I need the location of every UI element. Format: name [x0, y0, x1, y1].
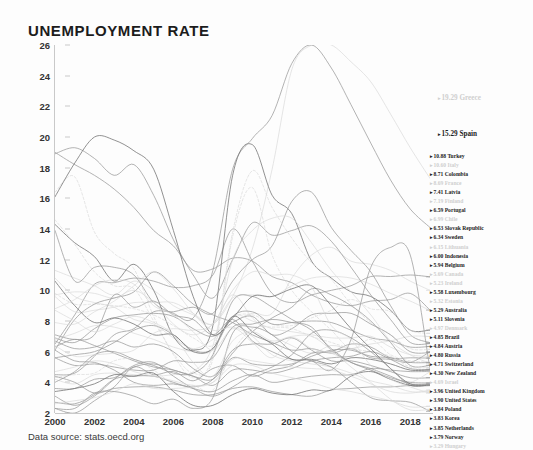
y-axis-tick: 12 [39, 254, 50, 265]
series-label-text: 4.30 New Zealand [434, 370, 477, 376]
series-label-netherlands: ▸3.85 Netherlands [430, 426, 474, 432]
x-axis-tick: 2000 [44, 416, 65, 427]
series-label-finland: ▸7.19 Finland [430, 199, 463, 205]
x-axis-line [55, 413, 433, 414]
y-axis-tick: 22 [39, 101, 50, 112]
series-label-latvia: ▸7.41 Latvia [430, 190, 460, 196]
x-axis-tick: 2004 [123, 416, 144, 427]
series-label-turkey: ▸10.88 Turkey [430, 154, 465, 160]
series-label-text: 5.58 Luxembourg [434, 289, 476, 295]
series-label-text: 4.69 Israel [434, 379, 459, 385]
series-label-slovenia: ▸5.11 Slovenia [430, 317, 465, 323]
series-label-belgium: ▸5.94 Belgium [430, 263, 465, 269]
series-label-text: 6.53 Slovak Republic [434, 226, 484, 232]
series-label-text: 6.99 Chile [434, 217, 458, 223]
y-axis-tick: 4 [45, 377, 50, 388]
series-label-lithuania: ▸6.15 Lithuania [430, 245, 468, 251]
series-label-luxembourg: ▸5.58 Luxembourg [430, 290, 476, 296]
series-label-text: 5.69 Canada [434, 271, 464, 277]
series-label-new-zealand: ▸4.30 New Zealand [430, 371, 476, 377]
y-axis-tick: 26 [39, 40, 50, 51]
x-axis-tick: 2014 [321, 416, 342, 427]
series-line [55, 152, 430, 310]
series-label-chile: ▸6.99 Chile [430, 218, 457, 224]
series-label-korea: ▸3.83 Korea [430, 417, 460, 423]
series-label-sweden: ▸6.34 Sweden [430, 236, 463, 242]
y-axis-tick: 10 [39, 285, 50, 296]
series-label-text: 4.71 Switzerland [434, 361, 474, 367]
series-label-text: 15.29 Spain [442, 130, 478, 138]
series-line [55, 148, 430, 345]
series-label-text: 19.29 Greece [442, 94, 481, 102]
series-label-text: 4.80 Russia [434, 352, 461, 358]
x-axis-tick: 2012 [281, 416, 302, 427]
series-label-slovak-republic: ▸6.53 Slovak Republic [430, 227, 484, 233]
series-label-poland: ▸3.84 Poland [430, 408, 461, 414]
series-label-switzerland: ▸4.71 Switzerland [430, 362, 473, 368]
series-label-denmark: ▸4.97 Denmark [430, 326, 467, 332]
series-label-text: 3.29 Hungary [434, 443, 467, 449]
series-endpoint-labels: ▸19.29 Greece▸15.29 Spain▸10.88 Turkey▸1… [430, 88, 533, 433]
series-label-brazil: ▸4.85 Brazil [430, 335, 459, 341]
series-label-russia: ▸4.80 Russia [430, 353, 461, 359]
series-label-france: ▸8.69 France [430, 181, 461, 187]
series-label-text: 5.29 Australia [434, 307, 467, 313]
y-axis-labels: 2468101214161820222426 [16, 45, 54, 413]
series-label-text: 8.69 France [434, 180, 462, 186]
series-label-text: 3.85 Netherlands [434, 425, 474, 431]
x-axis-tick: 2006 [163, 416, 184, 427]
series-label-text: 3.83 Korea [434, 416, 460, 422]
source-note: Data source: stats.oecd.org [28, 431, 144, 442]
series-label-text: 5.32 Estonia [434, 298, 463, 304]
x-axis-tick: 2016 [360, 416, 381, 427]
series-label-text: 3.79 Norway [434, 434, 464, 440]
series-label-ireland: ▸5.23 Ireland [430, 281, 462, 287]
series-label-text: 5.11 Slovenia [434, 316, 465, 322]
series-label-text: 10.60 Italy [434, 162, 459, 168]
series-label-text: 6.15 Lithuania [434, 244, 469, 250]
series-label-colombia: ▸8.71 Colombia [430, 172, 468, 178]
series-label-estonia: ▸5.32 Estonia [430, 299, 463, 305]
series-label-portugal: ▸6.59 Portugal [430, 209, 466, 215]
y-axis-tick: 16 [39, 193, 50, 204]
series-label-text: 3.84 Poland [434, 407, 462, 413]
series-label-text: 7.19 Finland [434, 198, 464, 204]
series-line [55, 376, 430, 396]
y-axis-tick: 24 [39, 70, 50, 81]
series-label-text: 7.41 Latvia [434, 189, 461, 195]
series-label-text: 6.59 Portugal [434, 208, 466, 214]
series-label-text: 3.96 United Kingdom [434, 389, 485, 395]
series-label-israel: ▸4.69 Israel [430, 380, 458, 386]
x-axis-tick: 2008 [202, 416, 223, 427]
series-label-hungary: ▸3.29 Hungary [430, 444, 466, 450]
series-label-norway: ▸3.79 Norway [430, 435, 464, 441]
y-axis-tick: 6 [45, 346, 50, 357]
series-label-text: 4.84 Austria [434, 343, 463, 349]
series-line [55, 170, 430, 377]
x-axis-tick: 2010 [242, 416, 263, 427]
series-label-text: 5.94 Belgium [434, 262, 465, 268]
series-label-text: 6.00 Indonesia [434, 253, 469, 259]
series-label-canada: ▸5.69 Canada [430, 272, 463, 278]
series-label-united-kingdom: ▸3.96 United Kingdom [430, 390, 485, 396]
x-axis-tick: 2002 [84, 416, 105, 427]
plot-area [55, 45, 430, 413]
y-axis-tick: 18 [39, 162, 50, 173]
series-label-text: 10.88 Turkey [434, 153, 465, 159]
series-line [55, 272, 430, 392]
series-label-spain: ▸15.29 Spain [438, 131, 477, 138]
chart-title: UNEMPLOYMENT RATE [28, 22, 210, 39]
series-label-austria: ▸4.84 Austria [430, 344, 462, 350]
series-label-italy: ▸10.60 Italy [430, 163, 459, 169]
y-axis-tick: 8 [45, 316, 50, 327]
series-label-greece: ▸19.29 Greece [438, 95, 481, 102]
y-axis-tick: 14 [39, 224, 50, 235]
series-label-text: 5.23 Ireland [434, 280, 463, 286]
series-lines [55, 45, 430, 413]
series-label-indonesia: ▸6.00 Indonesia [430, 254, 468, 260]
unemployment-rate-chart: UNEMPLOYMENT RATE 2468101214161820222426… [0, 0, 533, 450]
series-label-australia: ▸5.29 Australia [430, 308, 467, 314]
x-axis-tick: 2018 [400, 416, 421, 427]
y-axis-tick: 20 [39, 132, 50, 143]
series-line [55, 271, 430, 393]
